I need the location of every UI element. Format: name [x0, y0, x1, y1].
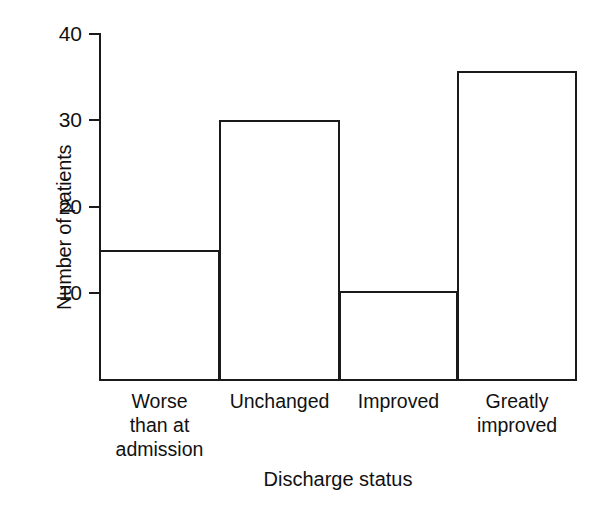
x-category-label-unchanged: Unchanged	[215, 389, 344, 413]
bar-worse-than-at-admission	[99, 250, 220, 381]
x-category-label-greatly-improved: Greatly improved	[457, 389, 577, 437]
y-tick-label-20: 20	[26, 195, 82, 219]
y-axis-title: Number of patients	[44, 0, 84, 310]
y-tick-label-30: 30	[26, 108, 82, 132]
bar-improved	[339, 291, 458, 381]
bar-unchanged	[219, 120, 340, 381]
y-tick-label-40: 40	[26, 22, 82, 46]
chart-figure: Number of patients 40 30 20 10 Worse tha…	[0, 0, 606, 511]
x-category-label-improved: Improved	[339, 389, 458, 413]
bar-greatly-improved	[457, 71, 577, 381]
x-category-label-worse: Worse than at admission	[99, 389, 220, 461]
x-axis-title: Discharge status	[99, 468, 577, 491]
y-tick-label-10: 10	[26, 281, 82, 305]
